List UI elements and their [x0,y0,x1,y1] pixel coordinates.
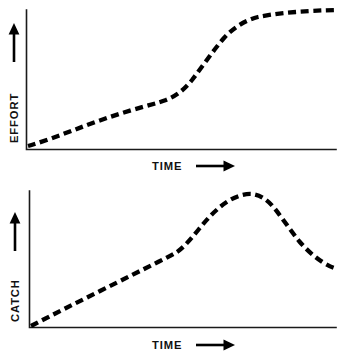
arrow-up-icon [9,23,20,62]
arrow-up-icon [10,212,21,251]
arrow-right-icon [196,340,235,351]
chart-panel-catch: CATCH TIME [0,179,340,358]
arrow-right-icon [196,161,235,172]
catch-curve [31,194,336,326]
catch-axes [30,191,337,328]
two-panel-fisheries-figure: EFFORT TIME CATCH TI [0,0,340,358]
catch-chart-svg: CATCH TIME [0,179,340,358]
effort-curve [28,10,336,146]
effort-chart-svg: EFFORT TIME [0,0,340,179]
chart-panel-effort: EFFORT TIME [0,0,340,179]
catch-y-axis-label: CATCH [9,279,21,322]
catch-x-axis-label: TIME [152,339,182,351]
effort-x-axis-label: TIME [152,160,182,172]
effort-axes [27,10,337,150]
effort-y-axis-label: EFFORT [8,93,20,143]
